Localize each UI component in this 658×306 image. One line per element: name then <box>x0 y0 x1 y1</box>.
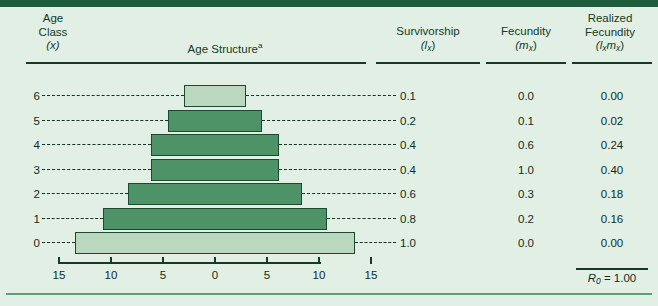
header-rule-realized <box>572 62 652 64</box>
axis-tick <box>266 257 268 264</box>
age-structure-bar <box>75 232 356 254</box>
survivorship-value: 0.1 <box>400 84 460 108</box>
axis-tick-label: 10 <box>304 269 334 281</box>
table-row: 20.60.30.18 <box>0 182 658 206</box>
age-class-line1: Age <box>22 12 84 26</box>
leader-line-right <box>262 120 396 121</box>
leader-line-right <box>279 144 396 145</box>
axis-tick <box>58 257 60 264</box>
age-structure-bar <box>168 110 262 132</box>
age-structure-axis: 15105051015 <box>0 262 658 302</box>
fecundity-close: ) <box>533 39 537 51</box>
leader-line-right <box>327 218 396 219</box>
leader-line-left <box>42 120 168 121</box>
fecundity-value: 0.0 <box>486 231 566 255</box>
axis-tick <box>214 257 216 264</box>
age-structure-bar <box>184 85 246 107</box>
survivorship-close: ) <box>431 39 435 51</box>
axis-line <box>59 262 321 264</box>
fecundity-open: (m <box>515 39 528 51</box>
column-header-age-structure: Age Structurea <box>120 39 330 57</box>
age-structure-bar <box>103 208 328 230</box>
realized-symbol: (lxmx) <box>566 39 654 56</box>
survivorship-value: 1.0 <box>400 231 460 255</box>
age-class-label: 2 <box>26 182 40 206</box>
top-rule <box>0 0 658 7</box>
leader-line-left <box>42 169 151 170</box>
axis-tick <box>162 257 164 264</box>
leader-line-right <box>279 169 396 170</box>
survivorship-value: 0.2 <box>400 109 460 133</box>
header-rule-survivorship <box>376 62 480 64</box>
age-class-label: 3 <box>26 158 40 182</box>
leader-line-left <box>42 144 151 145</box>
header-rule-left <box>26 62 366 64</box>
axis-tick <box>318 257 320 264</box>
r0-total: R0 = 1.00 <box>572 272 652 286</box>
age-class-label: 5 <box>26 109 40 133</box>
axis-tick-label: 0 <box>200 269 230 281</box>
age-structure-bar <box>151 159 280 181</box>
fecundity-value: 0.2 <box>486 207 566 231</box>
realized-fecundity-value: 0.16 <box>572 207 652 231</box>
age-class-label: 6 <box>26 84 40 108</box>
realized-close: ) <box>620 39 624 51</box>
header-rule-fecundity <box>486 62 566 64</box>
table-row: 10.80.20.16 <box>0 207 658 231</box>
leader-line-right <box>302 193 396 194</box>
leader-line-left <box>42 193 128 194</box>
age-class-line3: (x) <box>22 39 84 53</box>
fecundity-value: 1.0 <box>486 158 566 182</box>
realized-fecundity-value: 0.24 <box>572 133 652 157</box>
column-header-realized-fecundity: Realized Fecundity (lxmx) <box>566 12 654 56</box>
realized-line1: Realized <box>566 12 654 26</box>
leader-line-right <box>246 95 396 96</box>
axis-tick-label: 5 <box>148 269 178 281</box>
axis-tick-label: 10 <box>96 269 126 281</box>
age-structure-label: Age Structure <box>188 43 258 55</box>
age-class-line2: Class <box>22 26 84 40</box>
table-row: 01.00.00.00 <box>0 231 658 255</box>
fecundity-value: 0.0 <box>486 84 566 108</box>
realized-fecundity-value: 0.40 <box>572 158 652 182</box>
survivorship-value: 0.4 <box>400 133 460 157</box>
r0-symbol: R <box>588 272 596 284</box>
axis-tick-label: 5 <box>252 269 282 281</box>
axis-tick-label: 15 <box>356 269 386 281</box>
realized-line2: Fecundity <box>566 26 654 40</box>
survivorship-value: 0.8 <box>400 207 460 231</box>
table-row: 60.10.00.00 <box>0 84 658 108</box>
age-class-label: 0 <box>26 231 40 255</box>
table-row: 30.41.00.40 <box>0 158 658 182</box>
table-row: 50.20.10.02 <box>0 109 658 133</box>
survivorship-symbol: (lx) <box>376 39 480 56</box>
r0-value: = 1.00 <box>601 272 637 284</box>
leader-line-left <box>42 95 184 96</box>
realized-fecundity-value: 0.18 <box>572 182 652 206</box>
column-header-survivorship: Survivorship (lx) <box>376 25 480 55</box>
column-header-age-class: Age Class (x) <box>22 12 84 53</box>
footnote-marker-a: a <box>258 41 262 50</box>
fecundity-symbol: (mx) <box>480 39 572 56</box>
survivorship-value: 0.6 <box>400 182 460 206</box>
axis-tick-label: 15 <box>44 269 74 281</box>
leader-line-right <box>355 242 396 243</box>
leader-line-left <box>42 242 75 243</box>
age-structure-bar <box>151 134 280 156</box>
axis-tick <box>370 257 372 264</box>
leader-line-left <box>42 218 103 219</box>
survivorship-line1: Survivorship <box>376 25 480 39</box>
realized-fecundity-value: 0.00 <box>572 84 652 108</box>
age-class-label: 4 <box>26 133 40 157</box>
axis-tick <box>110 257 112 264</box>
realized-fecundity-value: 0.00 <box>572 231 652 255</box>
fecundity-value: 0.6 <box>486 133 566 157</box>
realized-fecundity-value: 0.02 <box>572 109 652 133</box>
age-class-label: 1 <box>26 207 40 231</box>
column-header-fecundity: Fecundity (mx) <box>480 25 572 55</box>
r0-rule <box>576 268 648 270</box>
fecundity-value: 0.1 <box>486 109 566 133</box>
table-row: 40.40.60.24 <box>0 133 658 157</box>
age-structure-bar <box>128 183 303 205</box>
life-table-age-structure-figure: Age Class (x) Age Structurea Survivorshi… <box>0 0 658 306</box>
